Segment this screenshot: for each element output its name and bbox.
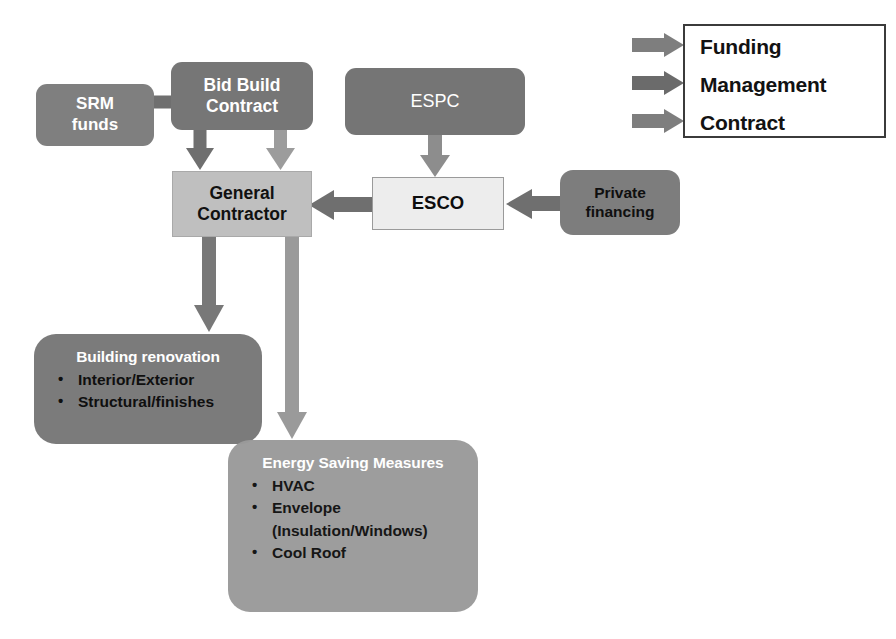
energy-saving-measures-bullet-list: HVAC Envelope (Insulation/Windows) Cool … (228, 475, 478, 565)
node-bid-build-contract[interactable]: Bid Build Contract (171, 62, 313, 130)
node-energy-saving-measures[interactable]: Energy Saving Measures HVAC Envelope (In… (228, 440, 478, 612)
connector-general-contractor-to-building-renovation (194, 237, 224, 332)
building-renovation-title: Building renovation (34, 348, 262, 369)
node-esco-label: ESCO (412, 192, 464, 215)
list-item: Interior/Exterior (56, 369, 256, 391)
legend-arrow-management (632, 71, 684, 95)
node-espc[interactable]: ESPC (345, 68, 525, 135)
node-bid-build-contract-line-2: Contract (206, 96, 278, 117)
legend-arrow-contract (632, 109, 684, 133)
node-building-renovation[interactable]: Building renovation Interior/Exterior St… (34, 334, 262, 444)
connector-bidbuild-to-general-contractor (266, 128, 295, 170)
energy-saving-measures-title: Energy Saving Measures (228, 454, 478, 475)
node-srm-funds-line-1: SRM (76, 94, 114, 115)
legend-label-funding: Funding (700, 35, 781, 59)
connector-esco-to-general-contractor (309, 190, 374, 220)
connector-espc-to-esco (420, 133, 450, 177)
node-private-financing[interactable]: Private financing (560, 170, 680, 235)
node-general-contractor-line-1: General (209, 183, 274, 204)
node-private-financing-line-2: financing (586, 203, 655, 222)
list-item: Cool Roof (250, 542, 472, 564)
list-item-continuation: (Insulation/Windows) (250, 520, 472, 542)
building-renovation-bullet-list: Interior/Exterior Structural/finishes (34, 369, 262, 414)
legend-label-contract: Contract (700, 111, 785, 135)
list-item: Structural/finishes (56, 391, 256, 413)
legend-label-management: Management (700, 73, 826, 97)
node-general-contractor-line-2: Contractor (197, 204, 286, 225)
node-private-financing-line-1: Private (594, 184, 646, 203)
node-srm-funds[interactable]: SRM funds (36, 84, 154, 146)
node-general-contractor[interactable]: General Contractor (172, 171, 312, 237)
legend-arrow-funding (632, 33, 684, 57)
node-esco[interactable]: ESCO (372, 177, 504, 230)
node-bid-build-contract-line-1: Bid Build (204, 75, 281, 96)
list-item: Envelope (250, 497, 472, 519)
connector-general-contractor-to-energy-saving (277, 237, 307, 439)
connector-private-financing-to-esco (506, 189, 562, 219)
node-srm-funds-line-2: funds (72, 115, 118, 136)
list-item: HVAC (250, 475, 472, 497)
node-espc-label: ESPC (410, 91, 459, 113)
